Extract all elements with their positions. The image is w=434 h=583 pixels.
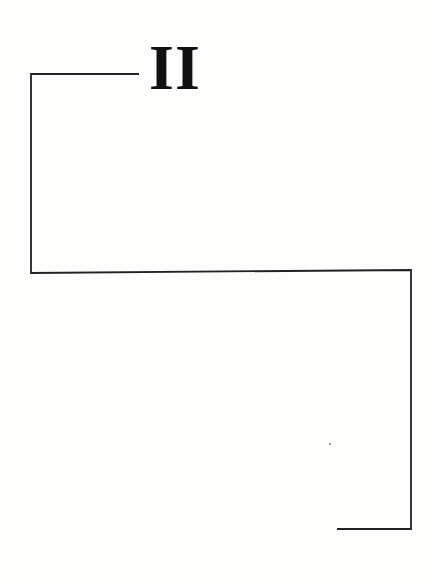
section-numeral: II bbox=[149, 36, 201, 100]
connector-line bbox=[31, 74, 411, 529]
scan-speck bbox=[329, 443, 331, 445]
bracket-line-art bbox=[0, 0, 434, 583]
document-page: II bbox=[0, 0, 434, 583]
